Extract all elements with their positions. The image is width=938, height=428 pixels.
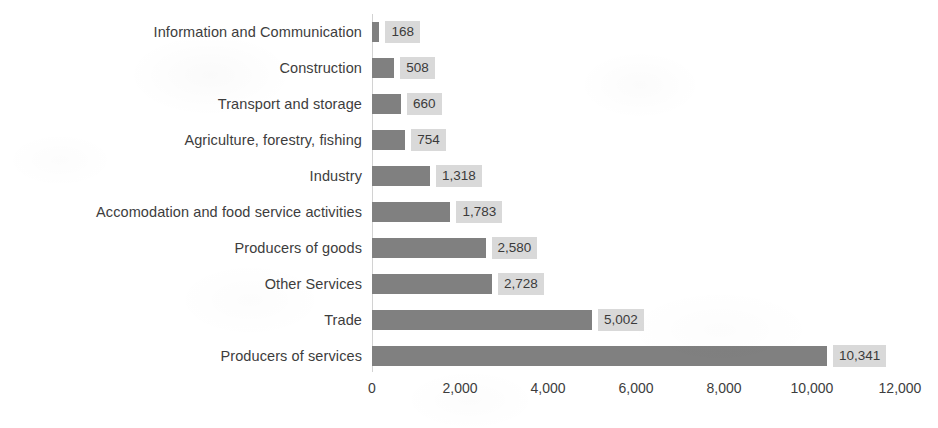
- data-label: 168: [385, 21, 420, 43]
- data-label: 2,728: [498, 273, 544, 295]
- bar-track: 660: [372, 86, 938, 122]
- bar-row: Producers of goods 2,580: [0, 230, 938, 266]
- data-label: 5,002: [598, 309, 644, 331]
- bar[interactable]: [372, 94, 401, 114]
- horizontal-bar-chart: Information and Communication 168 Constr…: [0, 0, 938, 428]
- bar[interactable]: [372, 274, 492, 294]
- bar-track: 10,341: [372, 338, 938, 374]
- bar[interactable]: [372, 166, 430, 186]
- data-label: 10,341: [833, 345, 886, 367]
- bar-track: 168: [372, 14, 938, 50]
- axis-tick-label: 4,000: [530, 378, 565, 398]
- bar[interactable]: [372, 202, 450, 222]
- category-label: Agriculture, forestry, fishing: [0, 131, 362, 149]
- bar-track: 1,783: [372, 194, 938, 230]
- bar-track: 2,728: [372, 266, 938, 302]
- bar[interactable]: [372, 346, 827, 366]
- category-label: Trade: [0, 311, 362, 329]
- bar-row: Industry 1,318: [0, 158, 938, 194]
- category-label: Producers of goods: [0, 239, 362, 257]
- category-label: Industry: [0, 167, 362, 185]
- bar[interactable]: [372, 238, 486, 258]
- value-axis-tick-labels: 0 2,000 4,000 6,000 8,000 10,000 12,000: [372, 378, 938, 400]
- axis-tick-label: 6,000: [618, 378, 653, 398]
- bar-row: Producers of services 10,341: [0, 338, 938, 374]
- bar-track: 754: [372, 122, 938, 158]
- axis-tick-label: 8,000: [706, 378, 741, 398]
- bar[interactable]: [372, 22, 379, 42]
- bar-row: Agriculture, forestry, fishing 754: [0, 122, 938, 158]
- bar-row: Construction 508: [0, 50, 938, 86]
- bar[interactable]: [372, 58, 394, 78]
- bar-row: Other Services 2,728: [0, 266, 938, 302]
- plot-area: Information and Communication 168 Constr…: [0, 0, 938, 428]
- category-label: Other Services: [0, 275, 362, 293]
- data-label: 660: [407, 93, 442, 115]
- axis-tick-label: 0: [368, 378, 376, 398]
- bar-row: Transport and storage 660: [0, 86, 938, 122]
- axis-tick-label: 12,000: [879, 378, 922, 398]
- data-label: 1,318: [436, 165, 482, 187]
- bar-track: 5,002: [372, 302, 938, 338]
- data-label: 508: [400, 57, 435, 79]
- bar-track: 508: [372, 50, 938, 86]
- category-label: Information and Communication: [0, 23, 362, 41]
- bar-row: Trade 5,002: [0, 302, 938, 338]
- data-label: 2,580: [492, 237, 538, 259]
- bar-track: 1,318: [372, 158, 938, 194]
- category-label: Construction: [0, 59, 362, 77]
- axis-tick-label: 2,000: [442, 378, 477, 398]
- category-label: Accomodation and food service activities: [0, 203, 362, 221]
- bar[interactable]: [372, 130, 405, 150]
- data-label: 754: [411, 129, 446, 151]
- bar-row: Information and Communication 168: [0, 14, 938, 50]
- category-label: Producers of services: [0, 347, 362, 365]
- bar-track: 2,580: [372, 230, 938, 266]
- bar[interactable]: [372, 310, 592, 330]
- data-label: 1,783: [456, 201, 502, 223]
- category-label: Transport and storage: [0, 95, 362, 113]
- bar-row: Accomodation and food service activities…: [0, 194, 938, 230]
- axis-tick-label: 10,000: [791, 378, 834, 398]
